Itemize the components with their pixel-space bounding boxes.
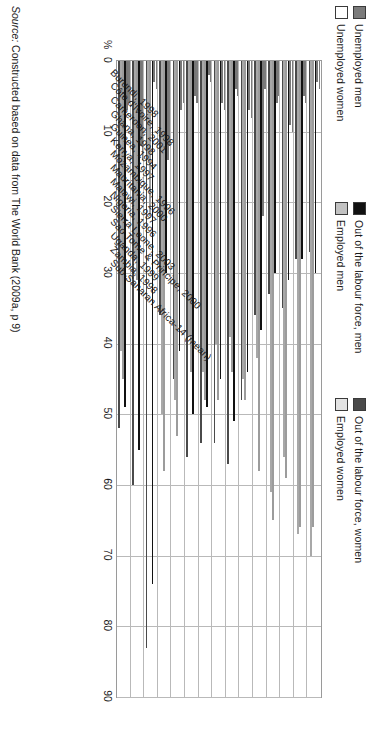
bar-group — [212, 61, 226, 697]
bar-unemployed_women — [180, 61, 182, 110]
bar-olf_women — [268, 61, 270, 294]
legend-label-olf-men: Out of the labour force, men — [354, 220, 366, 354]
category-axis: Burundi, 1998Côte d'Ivoire, 1998Cameroon… — [6, 60, 116, 696]
bar-olf_men — [274, 61, 276, 273]
category-separator — [293, 61, 294, 697]
bar-unemployed_women — [153, 61, 155, 82]
bar-group — [199, 61, 213, 697]
bar-olf_men — [260, 61, 262, 330]
bar-employed_women — [202, 61, 204, 372]
bar-employed_men — [217, 61, 219, 400]
bar-group — [267, 61, 281, 697]
legend-label-employed-men: Employed men — [336, 220, 348, 291]
category-separator — [170, 61, 171, 697]
bar-olf_women — [282, 61, 284, 308]
bar-olf_women — [186, 61, 188, 457]
bar-group — [294, 61, 308, 697]
category-separator — [279, 61, 280, 697]
legend-swatch-unemployed-men — [353, 6, 366, 19]
bar-employed_men — [176, 61, 178, 436]
bar-olf_men — [233, 61, 235, 421]
bar-group — [171, 61, 185, 697]
legend-label-employed-women: Employed women — [336, 416, 348, 501]
bar-employed_men — [272, 61, 274, 520]
bar-group — [253, 61, 267, 697]
bar-group — [226, 61, 240, 697]
source-prefix: Source: — [10, 6, 22, 42]
bar-employed_women — [229, 61, 231, 337]
bar-employed_women — [161, 61, 163, 414]
legend-swatch-employed-women — [335, 398, 348, 411]
figure-page: Unemployed men Out of the labour force, … — [0, 0, 374, 749]
legend-label-unemployed-men: Unemployed men — [354, 24, 366, 108]
bar-olf_women — [295, 61, 297, 259]
bar-employed_men — [258, 61, 260, 471]
category-separator — [225, 61, 226, 697]
legend-item-employed-men: Employed men — [335, 202, 348, 398]
legend-item-olf-women: Out of the labour force, women — [353, 398, 366, 594]
legend-swatch-employed-men — [335, 202, 348, 215]
bar-group — [307, 61, 321, 697]
legend-item-unemployed-men: Unemployed men — [353, 6, 366, 202]
bar-employed_women — [174, 61, 176, 400]
bar-unemployed_women — [316, 61, 318, 82]
bar-employed_men — [190, 61, 192, 372]
bar-olf_men — [220, 61, 222, 379]
legend-swatch-unemployed-women — [335, 6, 348, 19]
legend-item-olf-men: Out of the labour force, men — [353, 202, 366, 398]
bar-employed_men — [285, 61, 287, 478]
legend-swatch-olf-men — [353, 202, 366, 215]
bar-employed_women — [270, 61, 272, 492]
bar-employed_men — [299, 61, 301, 527]
bar-olf_men — [192, 61, 194, 414]
bar-employed_women — [256, 61, 258, 358]
bar-group — [280, 61, 294, 697]
category-separator — [184, 61, 185, 697]
bar-olf_women — [227, 61, 229, 464]
bar-group — [158, 61, 172, 697]
bar-unemployed_women — [276, 61, 278, 103]
bar-employed_women — [283, 61, 285, 457]
category-separator — [238, 61, 239, 697]
category-separator — [306, 61, 307, 697]
source-note: Source: Constructed based on data from T… — [10, 6, 22, 332]
bar-unemployed_women — [289, 61, 291, 125]
legend-label-unemployed-women: Unemployed women — [336, 24, 348, 121]
legend-item-employed-women: Employed women — [335, 398, 348, 594]
bar-olf_men — [165, 61, 167, 273]
bar-unemployed_men — [319, 61, 321, 89]
bar-olf_women — [241, 61, 243, 400]
bar-olf_men — [301, 61, 303, 259]
bar-olf_women — [214, 61, 216, 443]
bar-olf_women — [200, 61, 202, 443]
bar-unemployed_women — [221, 61, 223, 103]
source-text: Constructed based on data from The World… — [10, 45, 22, 332]
bar-chart-figure: Unemployed men Out of the labour force, … — [0, 0, 374, 749]
rotated-figure: Unemployed men Out of the labour force, … — [0, 0, 374, 749]
bar-group — [185, 61, 199, 697]
category-separator — [157, 61, 158, 697]
category-separator — [211, 61, 212, 697]
bar-unemployed_women — [235, 61, 237, 89]
bar-employed_women — [297, 61, 299, 534]
bar-olf_men — [247, 61, 249, 372]
bar-employed_men — [244, 61, 246, 400]
bar-olf_men — [288, 61, 290, 280]
bar-unemployed_women — [208, 61, 210, 75]
bar-olf_women — [309, 61, 311, 252]
legend-row-1: Unemployed men Out of the labour force, … — [353, 6, 366, 748]
bar-employed_men — [312, 61, 314, 527]
bar-olf_men — [315, 61, 317, 273]
chart-legend: Unemployed men Out of the labour force, … — [330, 6, 366, 748]
category-separator — [198, 61, 199, 697]
bar-group — [239, 61, 253, 697]
bar-unemployed_women — [262, 61, 264, 216]
bar-unemployed_women — [194, 61, 196, 96]
bar-unemployed_women — [248, 61, 250, 110]
legend-swatch-olf-women — [353, 398, 366, 411]
category-separator — [252, 61, 253, 697]
bar-employed_women — [242, 61, 244, 379]
percent-axis-label: % — [102, 40, 114, 49]
category-separator — [266, 61, 267, 697]
legend-item-unemployed-women: Unemployed women — [335, 6, 348, 202]
